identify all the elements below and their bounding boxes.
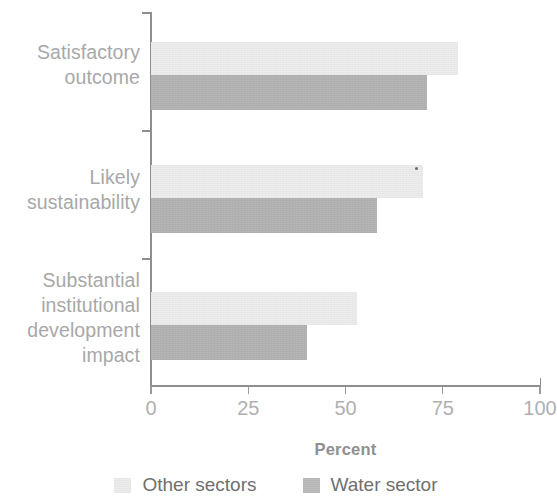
y-axis-label-line: Likely bbox=[0, 165, 140, 190]
y-axis-label-line: institutional bbox=[0, 293, 140, 318]
plot-area bbox=[151, 12, 540, 385]
bar-water-sector-0 bbox=[151, 75, 427, 110]
legend-label-other-sectors: Other sectors bbox=[142, 474, 256, 496]
x-axis-tick-label: 50 bbox=[334, 396, 356, 420]
y-axis-label-line: outcome bbox=[0, 65, 140, 90]
y-axis-label-substantial-institutional-development-impact: Substantial institutional development im… bbox=[0, 268, 140, 368]
bar-other-sectors-0 bbox=[151, 42, 458, 75]
x-axis-tick bbox=[442, 386, 443, 394]
y-axis-label-likely-sustainability: Likely sustainability bbox=[0, 165, 140, 215]
x-axis-tick-label: 0 bbox=[145, 396, 156, 420]
x-axis-tick bbox=[150, 386, 151, 394]
y-axis-label-line: sustainability bbox=[0, 190, 140, 215]
bar-other-sectors-2 bbox=[151, 292, 357, 325]
y-axis-label-line: Substantial bbox=[0, 268, 140, 293]
bar-water-sector-1 bbox=[151, 198, 377, 233]
x-axis-tick-label: 75 bbox=[432, 396, 454, 420]
x-axis-tick bbox=[345, 386, 346, 394]
legend-item-other-sectors[interactable]: Other sectors bbox=[114, 474, 256, 496]
x-axis-tick bbox=[248, 386, 249, 394]
bar-water-sector-2 bbox=[151, 325, 307, 360]
legend-label-water-sector: Water sector bbox=[331, 474, 438, 496]
y-axis-labels: Satisfactory outcome Likely sustainabili… bbox=[0, 0, 140, 400]
y-axis-label-line: impact bbox=[0, 343, 140, 368]
x-axis-title: Percent bbox=[151, 440, 540, 459]
legend-swatch-water-sector bbox=[303, 478, 320, 493]
y-axis-group-tick bbox=[142, 258, 151, 260]
y-axis-group-tick bbox=[142, 130, 151, 132]
legend-swatch-other-sectors bbox=[114, 478, 131, 493]
scan-speck bbox=[415, 167, 418, 170]
y-axis-top-tick bbox=[142, 12, 151, 14]
legend: Other sectors Water sector bbox=[0, 474, 552, 496]
x-axis-tick-label: 25 bbox=[237, 396, 259, 420]
y-axis-label-satisfactory-outcome: Satisfactory outcome bbox=[0, 40, 140, 90]
bar-other-sectors-1 bbox=[151, 165, 423, 198]
legend-item-water-sector[interactable]: Water sector bbox=[303, 474, 438, 496]
y-axis-label-line: development bbox=[0, 318, 140, 343]
y-axis-label-line: Satisfactory bbox=[0, 40, 140, 65]
x-axis-tick bbox=[539, 386, 540, 394]
x-axis-tick-label: 100 bbox=[523, 396, 556, 420]
